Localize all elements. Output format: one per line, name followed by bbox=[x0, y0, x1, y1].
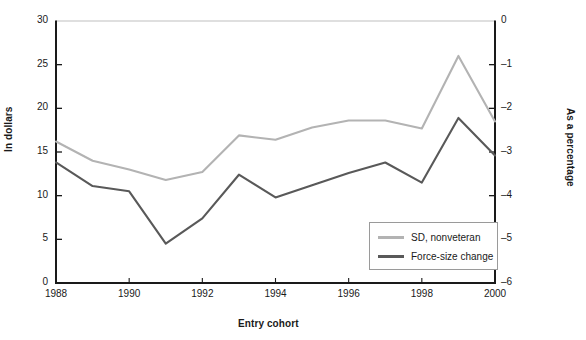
x-tick-1992: 1992 bbox=[177, 288, 227, 299]
y-tick-left-20: 20 bbox=[22, 101, 48, 112]
y-tick-right-3: –3 bbox=[501, 145, 527, 156]
y-tick-left-25: 25 bbox=[22, 58, 48, 69]
legend-item-sd-nonveteran: SD, nonveteran bbox=[378, 229, 481, 245]
x-tick-1988: 1988 bbox=[31, 288, 81, 299]
y-tick-left-0: 0 bbox=[22, 276, 48, 287]
y-tick-left-30: 30 bbox=[22, 14, 48, 25]
x-tick-1998: 1998 bbox=[397, 288, 447, 299]
y-tick-right-1: –1 bbox=[501, 58, 527, 69]
x-tick-1990: 1990 bbox=[104, 288, 154, 299]
y-tick-right-4: –4 bbox=[501, 189, 527, 200]
x-tick-1994: 1994 bbox=[251, 288, 301, 299]
y-tick-right-6: –6 bbox=[501, 276, 527, 287]
legend-label-force-size-change: Force-size change bbox=[411, 251, 493, 262]
y-tick-right-5: –5 bbox=[501, 232, 527, 243]
legend-item-force-size-change: Force-size change bbox=[378, 248, 493, 264]
y-tick-left-5: 5 bbox=[22, 232, 48, 243]
legend-swatch-force-size-change bbox=[378, 255, 404, 258]
chart-legend: SD, nonveteran Force-size change bbox=[369, 222, 498, 270]
x-tick-2000: 2000 bbox=[470, 288, 520, 299]
y-tick-left-10: 10 bbox=[22, 189, 48, 200]
data-series-group bbox=[56, 56, 495, 244]
legend-swatch-sd-nonveteran bbox=[378, 236, 404, 239]
x-tick-1996: 1996 bbox=[324, 288, 374, 299]
y-tick-right-2: –2 bbox=[501, 101, 527, 112]
y-tick-left-15: 15 bbox=[22, 145, 48, 156]
y-tick-right-0: 0 bbox=[501, 14, 527, 25]
legend-label-sd-nonveteran: SD, nonveteran bbox=[411, 232, 481, 243]
figure: In dollars As a percentage Entry cohort … bbox=[0, 0, 586, 340]
